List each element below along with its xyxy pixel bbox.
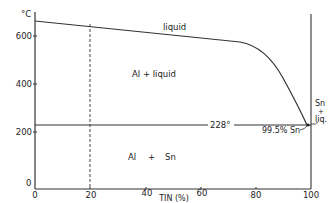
phase-diagram: °C 600 400 200 0 0 20 40 60 80 100 TIN (… [0,0,335,203]
region-label-liquid: liquid [163,22,186,32]
eutectic-composition-label: 99.5% Sn [262,126,300,135]
region-label-al: Al [128,152,136,162]
region-label-sn: Sn [165,152,176,162]
y-tick-label-0: 0 [26,178,31,188]
y-tick-label-600: 600 [16,31,32,41]
x-tick-label-80: 80 [251,190,262,200]
region-label-sn-liq-sn: Sn [315,99,325,108]
y-tick-label-400: 400 [16,79,32,89]
x-tick-label-100: 100 [303,190,319,200]
eutectic-temp-label: 228° [210,120,230,130]
eutectic-comp-leader [300,126,307,130]
y-tick-label-200: 200 [16,127,32,137]
region-label-plus: + [148,152,155,162]
x-tick-label-0: 0 [32,190,37,200]
x-tick-label-60: 60 [197,188,208,198]
region-label-al-liquid: Al + liquid [132,69,176,79]
x-axis-title: TIN (%) [158,194,189,203]
x-tick-label-20: 20 [86,190,97,200]
x-tick-label-40: 40 [142,188,153,198]
region-label-sn-liq-liq: liq. [315,115,327,124]
y-unit-label: °C [21,9,31,19]
